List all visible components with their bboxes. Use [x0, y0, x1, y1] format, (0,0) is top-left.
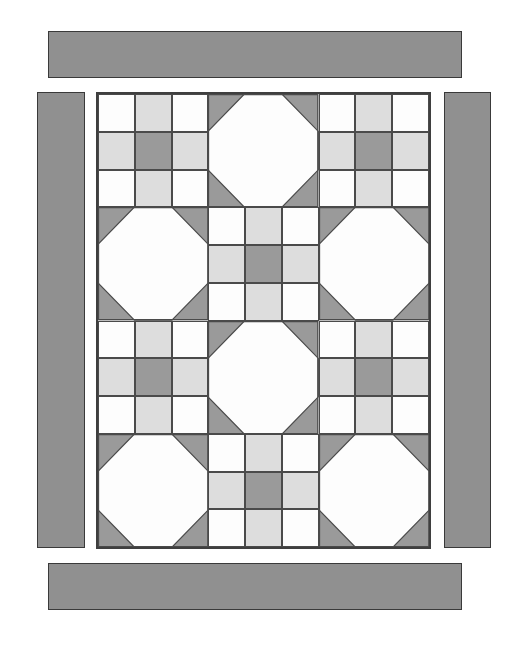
patch-square-light-gray: [98, 358, 135, 396]
left-border-strip: [37, 92, 85, 548]
snowball-block-r2c3: [319, 207, 429, 320]
right-border-strip: [444, 92, 491, 548]
patch-square-light-gray: [208, 472, 245, 510]
patch-square-dark-gray: [245, 472, 282, 510]
patch-square-white: [319, 94, 356, 132]
snowball-block-r2c1: [98, 207, 208, 320]
patch-square-light-gray: [355, 170, 392, 208]
patch-square-white: [282, 207, 319, 245]
quilt-canvas: [0, 0, 527, 650]
patch-square-light-gray: [135, 321, 172, 359]
patch-square-light-gray: [245, 283, 282, 321]
patch-square-light-gray: [245, 207, 282, 245]
patch-square-dark-gray: [135, 132, 172, 170]
patch-square-light-gray: [135, 94, 172, 132]
patch-square-white: [208, 283, 245, 321]
patch-square-white: [319, 321, 356, 359]
snowball-block-r1c2: [208, 94, 318, 207]
nine-patch-block-r1c3: [319, 94, 429, 207]
nine-patch-block-r1c1: [98, 94, 208, 207]
patch-square-light-gray: [172, 132, 209, 170]
patch-square-light-gray: [208, 245, 245, 283]
patch-square-light-gray: [282, 472, 319, 510]
patch-square-light-gray: [135, 170, 172, 208]
patch-square-light-gray: [392, 132, 429, 170]
nine-patch-block-r3c1: [98, 321, 208, 434]
patch-square-white: [392, 321, 429, 359]
nine-patch-block-r2c2: [208, 207, 318, 320]
quilt-block-grid: [98, 94, 429, 547]
patch-square-light-gray: [355, 94, 392, 132]
patch-square-light-gray: [392, 358, 429, 396]
patch-square-light-gray: [319, 132, 356, 170]
patch-square-light-gray: [355, 321, 392, 359]
patch-square-white: [98, 170, 135, 208]
nine-patch-block-r3c3: [319, 321, 429, 434]
patch-square-light-gray: [135, 396, 172, 434]
patch-square-light-gray: [245, 509, 282, 547]
patch-square-white: [392, 94, 429, 132]
snowball-block-r4c3: [319, 434, 429, 547]
nine-patch-block-r4c2: [208, 434, 318, 547]
quilt-center-panel: [96, 92, 431, 549]
patch-square-light-gray: [319, 358, 356, 396]
patch-square-light-gray: [98, 132, 135, 170]
patch-square-white: [172, 396, 209, 434]
bottom-border-strip: [48, 563, 462, 610]
patch-square-white: [319, 396, 356, 434]
patch-square-white: [172, 321, 209, 359]
patch-square-white: [319, 170, 356, 208]
patch-square-white: [208, 207, 245, 245]
patch-square-light-gray: [282, 245, 319, 283]
patch-square-dark-gray: [355, 132, 392, 170]
patch-square-white: [282, 283, 319, 321]
patch-square-white: [172, 94, 209, 132]
patch-square-white: [392, 396, 429, 434]
snowball-block-r4c1: [98, 434, 208, 547]
patch-square-white: [208, 434, 245, 472]
patch-square-white: [282, 434, 319, 472]
snowball-block-r3c2: [208, 321, 318, 434]
patch-square-light-gray: [355, 396, 392, 434]
top-border-strip: [48, 31, 462, 78]
patch-square-white: [98, 94, 135, 132]
patch-square-white: [282, 509, 319, 547]
patch-square-dark-gray: [355, 358, 392, 396]
patch-square-light-gray: [245, 434, 282, 472]
patch-square-dark-gray: [245, 245, 282, 283]
patch-square-white: [98, 396, 135, 434]
patch-square-white: [98, 321, 135, 359]
patch-square-white: [392, 170, 429, 208]
patch-square-dark-gray: [135, 358, 172, 396]
patch-square-light-gray: [172, 358, 209, 396]
patch-square-white: [208, 509, 245, 547]
patch-square-white: [172, 170, 209, 208]
